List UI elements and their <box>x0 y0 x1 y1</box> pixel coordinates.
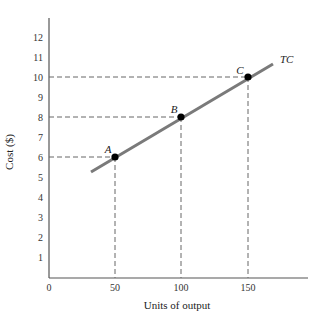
y-tick: 8 <box>38 112 43 123</box>
x-tick: 100 <box>174 282 189 293</box>
x-tick-labels: 0 50 100 150 <box>47 282 256 293</box>
x-tick: 0 <box>47 282 52 293</box>
y-tick: 6 <box>38 152 43 163</box>
x-axis-title: Units of output <box>144 299 211 311</box>
y-tick-labels: 1 2 3 4 5 6 7 8 9 10 11 12 <box>33 32 43 263</box>
y-tick: 1 <box>38 252 43 263</box>
y-tick: 7 <box>38 132 43 143</box>
y-tick: 12 <box>33 32 43 43</box>
y-tick: 9 <box>38 92 43 103</box>
y-axis-title: Cost ($) <box>3 134 16 170</box>
point-b <box>177 113 184 120</box>
y-tick: 10 <box>33 72 43 83</box>
y-tick: 2 <box>38 232 43 243</box>
tc-curve-label: TC <box>280 53 294 65</box>
y-tick: 4 <box>38 192 43 203</box>
reference-lines <box>49 77 248 278</box>
y-tick: 5 <box>38 172 43 183</box>
point-b-label: B <box>171 103 178 115</box>
point-c-label: C <box>236 64 244 76</box>
x-tick: 150 <box>241 282 256 293</box>
x-tick: 50 <box>110 282 120 293</box>
point-c <box>244 73 251 80</box>
point-a-label: A <box>104 143 112 155</box>
y-tick: 11 <box>33 52 43 63</box>
point-a <box>111 153 118 160</box>
total-cost-chart: 1 2 3 4 5 6 7 8 9 10 11 12 0 50 100 150 … <box>0 0 320 322</box>
y-tick: 3 <box>38 212 43 223</box>
